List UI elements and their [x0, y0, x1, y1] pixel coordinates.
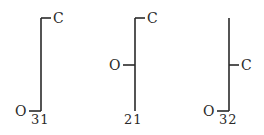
diagram-canvas: C O 31 C O 21 C O 32 — [0, 0, 264, 135]
o-label: O — [15, 103, 26, 119]
diagram-31: C O 31 — [15, 10, 64, 127]
number-label: 31 — [31, 112, 50, 127]
c-label: C — [241, 57, 252, 73]
c-label: C — [147, 10, 158, 26]
number-label: 21 — [124, 112, 143, 127]
o-label: O — [203, 103, 214, 119]
diagram-21: C O 21 — [109, 10, 158, 127]
diagram-32: C O 32 — [203, 18, 252, 127]
o-label: O — [109, 57, 120, 73]
c-label: C — [53, 10, 64, 26]
number-label: 32 — [219, 112, 238, 127]
